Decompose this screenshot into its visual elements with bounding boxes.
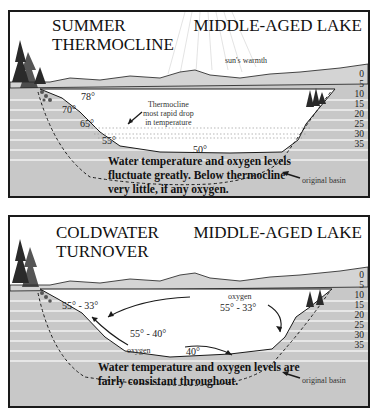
temp-label: 65° <box>80 119 94 129</box>
original-basin-label: original basin <box>302 177 346 185</box>
temp-label: 55° - 40° <box>130 329 166 339</box>
temp-label: 70° <box>62 105 76 115</box>
note-line: in temperature <box>143 118 194 127</box>
coldwater-turnover-panel: COLDWATER TURNOVER MIDDLE-AGED LAKE oxyg… <box>8 215 370 408</box>
oxygen-label: oxygen <box>228 293 252 301</box>
original-basin-label: original basin <box>302 377 346 385</box>
temp-label: 40° <box>186 347 200 357</box>
temp-label: 55° - 33° <box>62 301 98 311</box>
depth-tick: 0 <box>355 270 365 280</box>
depth-tick: 5 <box>355 79 365 89</box>
note-line: most rapid drop <box>143 109 194 118</box>
depth-tick: 15 <box>355 300 365 310</box>
temp-label: 78° <box>81 92 95 102</box>
depth-tick: 0 <box>355 69 365 79</box>
depth-scale: 0 5 10 15 20 25 30 35 <box>355 69 365 149</box>
depth-tick: 35 <box>355 340 365 350</box>
depth-tick: 15 <box>355 99 365 109</box>
depth-tick: 20 <box>355 109 365 119</box>
depth-tick: 5 <box>355 280 365 290</box>
depth-tick: 10 <box>355 89 365 99</box>
sun-warmth-label: sun's warmth <box>225 57 267 65</box>
temp-label: 55° - 33° <box>220 303 256 313</box>
lake-type-label: MIDDLE-AGED LAKE <box>193 224 362 241</box>
depth-scale: 0 5 10 15 20 25 30 35 <box>355 270 365 350</box>
title-line-1: SUMMER <box>52 16 174 35</box>
summer-thermocline-panel: SUMMER THERMOCLINE MIDDLE-AGED LAKE sun'… <box>8 10 370 198</box>
lake-type-label: MIDDLE-AGED LAKE <box>193 17 362 34</box>
oxygen-label: oxygen <box>127 347 151 355</box>
depth-tick: 30 <box>355 129 365 139</box>
title-line-2: THERMOCLINE <box>52 35 174 54</box>
depth-tick: 25 <box>355 320 365 330</box>
panel-title: COLDWATER TURNOVER <box>56 223 159 261</box>
caption-text: Water temperature and oxygen levels are … <box>98 360 308 388</box>
panel-title: SUMMER THERMOCLINE <box>52 16 174 54</box>
caption-text: Water temperature and oxygen levels fluc… <box>108 154 308 196</box>
title-line-2: TURNOVER <box>56 242 159 261</box>
note-line: Thermocline <box>143 100 194 109</box>
depth-tick: 20 <box>355 310 365 320</box>
depth-tick: 30 <box>355 330 365 340</box>
thermocline-note: Thermocline most rapid drop in temperatu… <box>143 100 194 127</box>
temp-label: 55° <box>102 136 116 146</box>
title-line-1: COLDWATER <box>56 223 159 242</box>
depth-tick: 10 <box>355 290 365 300</box>
depth-tick: 25 <box>355 119 365 129</box>
depth-tick: 35 <box>355 139 365 149</box>
